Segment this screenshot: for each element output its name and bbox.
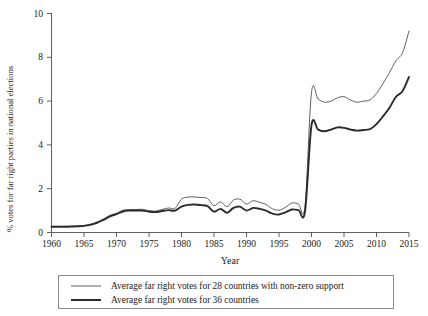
x-tick-label: 1980 xyxy=(172,239,191,249)
x-tick-label: 2015 xyxy=(400,239,419,249)
x-tick-label: 2010 xyxy=(367,239,386,249)
legend-item-label: Average far right votes for 28 countries… xyxy=(111,280,344,292)
x-tick-label: 1960 xyxy=(42,239,61,249)
chart-legend: Average far right votes for 28 countries… xyxy=(58,275,394,309)
series-line-28-countries xyxy=(52,31,410,226)
x-tick-label: 2005 xyxy=(335,239,354,249)
x-axis-title: Year xyxy=(221,255,240,266)
y-tick-label: 6 xyxy=(38,96,43,106)
x-tick-label: 1970 xyxy=(107,239,126,249)
y-tick-labels: 0 2 4 6 8 10 xyxy=(34,9,44,238)
chart-plot-area: % votes for far right parties in nationa… xyxy=(0,0,428,316)
legend-item-label: Average far right votes for 36 countries xyxy=(111,294,259,306)
legend-item: Average far right votes for 28 countries… xyxy=(59,279,393,293)
x-tick-label: 1965 xyxy=(75,239,94,249)
y-tick-label: 2 xyxy=(38,184,43,194)
chart-figure: % votes for far right parties in nationa… xyxy=(0,0,428,316)
x-tick-label: 1990 xyxy=(237,239,256,249)
legend-item: Average far right votes for 36 countries xyxy=(59,293,393,307)
x-tick-label: 1995 xyxy=(270,239,289,249)
x-tick-label: 1985 xyxy=(205,239,224,249)
y-tick-label: 8 xyxy=(38,52,43,62)
legend-line-swatch-thick xyxy=(69,295,103,305)
x-tick-group xyxy=(52,233,410,238)
y-tick-group xyxy=(47,14,52,233)
y-axis-title: % votes for far right parties in nationa… xyxy=(5,65,15,232)
x-tick-label: 2000 xyxy=(302,239,321,249)
y-tick-label: 0 xyxy=(38,228,43,238)
y-tick-label: 4 xyxy=(38,140,43,150)
x-tick-label: 1975 xyxy=(140,239,159,249)
y-tick-label: 10 xyxy=(34,9,44,19)
x-tick-labels: 1960 1965 1970 1975 1980 1985 1990 1995 … xyxy=(42,239,419,249)
legend-line-swatch-thin xyxy=(69,281,103,291)
